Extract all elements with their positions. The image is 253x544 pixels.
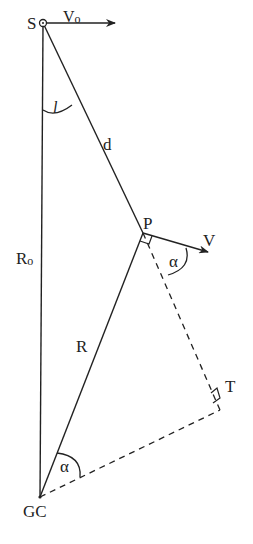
label-v: V bbox=[203, 231, 216, 250]
label-d: d bbox=[103, 135, 112, 154]
angle-l-arc bbox=[43, 105, 72, 113]
label-alpha-gc: α bbox=[60, 457, 69, 476]
label-angle-l: l bbox=[53, 99, 58, 116]
label-t: T bbox=[225, 377, 236, 396]
galactic-geometry-diagram: S Vo l d P V α Ro R T α GC bbox=[0, 0, 253, 544]
galactic-center-dot bbox=[38, 495, 41, 498]
dashed-line-gc-t bbox=[40, 410, 220, 497]
label-s: S bbox=[27, 14, 36, 33]
line-gc-p bbox=[40, 233, 143, 497]
dashed-line-p-t bbox=[143, 233, 220, 410]
label-gc: GC bbox=[23, 502, 47, 521]
label-alpha-p: α bbox=[169, 252, 178, 271]
label-v0: Vo bbox=[63, 8, 81, 26]
right-angle-marker-t bbox=[211, 388, 220, 403]
line-s-p bbox=[44, 25, 143, 233]
line-s-gc bbox=[40, 25, 43, 497]
label-p: P bbox=[143, 214, 152, 233]
label-r: R bbox=[76, 337, 88, 356]
label-r0: Ro bbox=[16, 249, 33, 268]
velocity-v-arrow bbox=[143, 233, 208, 252]
